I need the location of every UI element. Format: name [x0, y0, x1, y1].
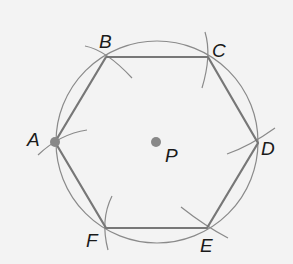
- hexagon-construction-diagram: A B C D E F P: [0, 0, 293, 264]
- label-f: F: [86, 230, 99, 251]
- label-c: C: [212, 40, 226, 61]
- arc-at-e-from-f: [181, 207, 228, 238]
- arc-at-f-from-a: [105, 196, 112, 250]
- arc-at-c-from-d: [202, 32, 208, 88]
- center-point-p-dot: [151, 137, 161, 147]
- label-d: D: [261, 138, 275, 159]
- arc-at-a-from-b: [38, 130, 87, 155]
- label-b: B: [99, 31, 112, 52]
- point-a-dot: [50, 137, 60, 147]
- label-p: P: [165, 145, 178, 166]
- label-a: A: [26, 129, 40, 150]
- diagram-canvas: A B C D E F P: [0, 0, 293, 264]
- label-e: E: [200, 235, 213, 256]
